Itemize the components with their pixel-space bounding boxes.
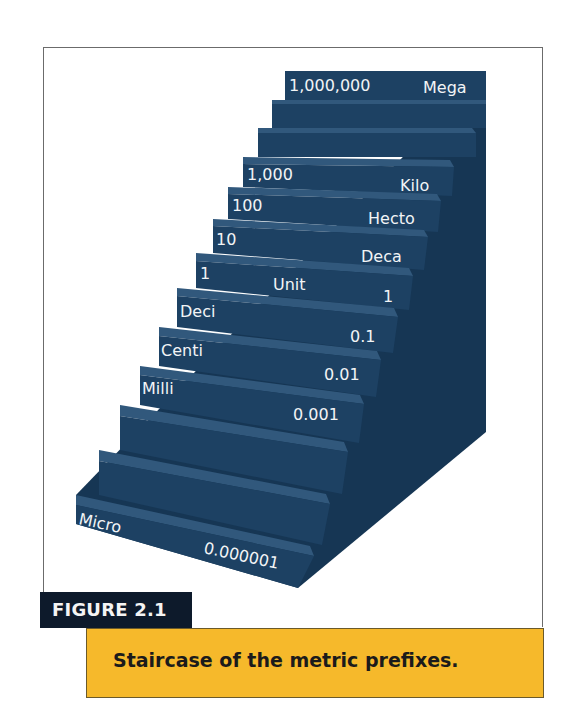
- figure-label: FIGURE 2.1: [40, 592, 192, 628]
- step-kilo-name: Kilo: [400, 176, 429, 195]
- step-milli-name: Milli: [142, 379, 174, 398]
- step-deca-name: Deca: [361, 247, 402, 266]
- step-deci-value: 0.1: [350, 327, 375, 346]
- step-hecto-value: 100: [232, 196, 263, 215]
- figure-caption: Staircase of the metric prefixes.: [113, 649, 459, 671]
- step-3: [258, 128, 476, 157]
- step-deci-name: Deci: [180, 302, 215, 321]
- step-mega-value: 1,000,000: [289, 76, 370, 95]
- step-unit-number: 1: [383, 287, 393, 306]
- step-centi-name: Centi: [161, 341, 203, 360]
- step-2: [272, 100, 486, 128]
- figure-caption-box: Staircase of the metric prefixes.: [86, 628, 544, 698]
- step-centi-value: 0.01: [324, 365, 360, 384]
- step-mega: 1,000,000 Mega: [285, 71, 486, 100]
- step-unit-label: Unit: [273, 275, 306, 294]
- step-mega-name: Mega: [423, 78, 467, 97]
- step-kilo-value: 1,000: [247, 165, 293, 184]
- step-milli-value: 0.001: [293, 405, 339, 424]
- step-unit-value: 1: [200, 264, 210, 283]
- step-deca-value: 10: [216, 230, 236, 249]
- step-hecto-name: Hecto: [368, 209, 415, 228]
